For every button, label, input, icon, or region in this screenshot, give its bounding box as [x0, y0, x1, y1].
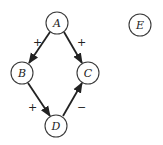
node-a-label: A [52, 17, 61, 30]
node-e-label: E [135, 19, 144, 32]
node-c-label: C [84, 67, 93, 80]
sign-a-c: + [77, 36, 86, 49]
sign-a-b: + [33, 36, 42, 49]
node-b-label: B [17, 67, 26, 80]
sign-d-c: − [77, 101, 86, 114]
causal-diagram: + + + − A B C D E [0, 0, 163, 145]
node-b: B [11, 62, 33, 84]
node-c: C [77, 62, 99, 84]
node-e: E [129, 14, 151, 36]
node-d-label: D [51, 120, 61, 133]
node-a: A [46, 12, 68, 34]
sign-b-d: + [28, 101, 37, 114]
node-d: D [45, 115, 67, 137]
